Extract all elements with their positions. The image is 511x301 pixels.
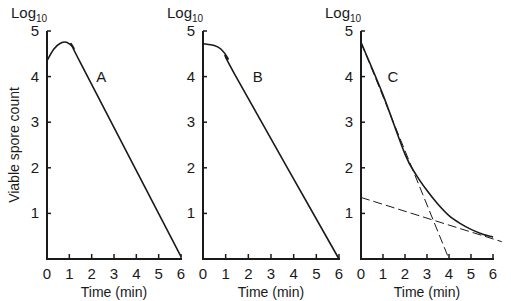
x-tick-label: 4 — [289, 265, 297, 282]
panel-b: Log10123450123456Time (min)B — [167, 4, 343, 300]
x-tick-label: 1 — [221, 265, 229, 282]
y-unit-label: Log10 — [325, 4, 362, 24]
y-tick-label: 4 — [31, 68, 39, 85]
y-tick-label: 4 — [187, 68, 195, 85]
y-tick-label: 1 — [187, 204, 195, 221]
data-curve — [47, 42, 181, 257]
y-tick-label: 2 — [345, 159, 353, 176]
y-tick-label: 5 — [31, 22, 39, 39]
x-tick-label: 6 — [335, 265, 343, 282]
x-tick-label: 0 — [357, 265, 365, 282]
x-tick-label: 0 — [43, 265, 51, 282]
y-tick-label: 4 — [345, 68, 353, 85]
x-axis-title: Time (min) — [394, 284, 460, 300]
y-tick-label: 3 — [31, 113, 39, 130]
extrapolation-line — [361, 197, 502, 241]
x-tick-label: 4 — [445, 265, 453, 282]
data-curve — [203, 44, 339, 259]
x-tick-label: 3 — [267, 265, 275, 282]
x-axis-title: Time (min) — [238, 284, 304, 300]
y-tick-label: 5 — [187, 22, 195, 39]
y-tick-label: 5 — [345, 22, 353, 39]
x-tick-label: 0 — [199, 265, 207, 282]
y-axis-title: Viable spore count — [6, 87, 22, 203]
y-tick-label: 3 — [187, 113, 195, 130]
x-tick-label: 4 — [132, 265, 140, 282]
panel-c: Log10123450123456Time (min)C — [325, 4, 502, 300]
curve-label: C — [387, 68, 398, 85]
x-tick-label: 5 — [312, 265, 320, 282]
x-tick-label: 3 — [423, 265, 431, 282]
x-tick-label: 5 — [467, 265, 475, 282]
x-tick-label: 1 — [379, 265, 387, 282]
y-tick-label: 2 — [187, 159, 195, 176]
spore-survival-figure: Viable spore countLog10123450123456Time … — [0, 0, 511, 301]
y-unit-label: Log10 — [167, 4, 204, 24]
x-tick-label: 2 — [87, 265, 95, 282]
x-tick-label: 3 — [110, 265, 118, 282]
y-tick-label: 1 — [345, 204, 353, 221]
y-tick-label: 3 — [345, 113, 353, 130]
panel-a: Log10123450123456Time (min)A — [11, 4, 185, 300]
x-tick-label: 6 — [177, 265, 185, 282]
y-tick-label: 2 — [31, 159, 39, 176]
x-tick-label: 6 — [489, 265, 497, 282]
curve-label: B — [253, 68, 263, 85]
x-tick-label: 1 — [65, 265, 73, 282]
x-tick-label: 2 — [244, 265, 252, 282]
data-curve — [361, 42, 493, 237]
y-unit-label: Log10 — [11, 4, 48, 24]
chart-canvas: Viable spore countLog10123450123456Time … — [0, 0, 511, 301]
x-axis-title: Time (min) — [81, 284, 147, 300]
y-tick-label: 1 — [31, 204, 39, 221]
x-tick-label: 2 — [401, 265, 409, 282]
curve-label: A — [96, 68, 106, 85]
x-tick-label: 5 — [154, 265, 162, 282]
